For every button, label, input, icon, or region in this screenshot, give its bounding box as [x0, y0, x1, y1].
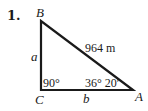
angle-c-label: 90° — [43, 76, 60, 90]
side-label-b: b — [83, 91, 90, 106]
vertex-label-c: C — [35, 92, 44, 107]
triangle-diagram: 1. B C A a b 964 m 90° 36° 20′ — [0, 0, 148, 111]
side-label-a: a — [31, 49, 38, 64]
vertex-label-b: B — [36, 5, 44, 20]
problem-number: 1. — [7, 8, 21, 23]
vertex-label-a: A — [134, 89, 143, 104]
hypotenuse-length: 964 m — [85, 41, 116, 55]
angle-a-label: 36° 20′ — [85, 76, 120, 90]
